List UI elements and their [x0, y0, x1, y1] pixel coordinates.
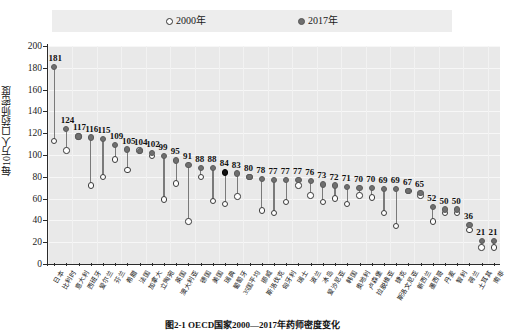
data-label-2017: 50 [452, 197, 461, 206]
data-point-2017 [308, 178, 314, 184]
data-point-2017 [210, 165, 216, 171]
x-tick-mark [360, 263, 361, 266]
gridline-vertical [121, 46, 122, 264]
data-point-2017 [332, 182, 338, 188]
data-point-2017 [466, 222, 472, 228]
x-tick-mark [421, 263, 422, 266]
data-label-2017: 36 [464, 212, 473, 221]
x-tick-mark [298, 263, 299, 266]
data-label-2017: 80 [244, 164, 253, 173]
data-point-2000 [63, 147, 69, 153]
x-tick-mark [201, 263, 202, 266]
data-point-2017 [344, 184, 350, 190]
gridline-vertical [243, 46, 244, 264]
data-point-2017 [234, 170, 240, 176]
x-tick-mark [372, 263, 373, 266]
data-point-2000 [320, 199, 326, 205]
data-point-2000 [491, 244, 497, 250]
legend-label-2017: 2017年 [308, 16, 338, 26]
data-point-2000 [332, 195, 338, 201]
y-tick-mark [43, 220, 47, 221]
x-tick-mark [408, 263, 409, 266]
data-point-2017 [100, 136, 106, 142]
data-point-2000 [369, 194, 375, 200]
data-point-2017 [173, 157, 179, 163]
stem-line [90, 138, 91, 186]
y-tick-label: 100 [20, 150, 42, 160]
data-point-2017 [381, 186, 387, 192]
y-tick-mark [43, 199, 47, 200]
chart-root: 2000年 2017年 每10万人口药师密度 02040608010012014… [0, 0, 505, 334]
x-tick-mark [347, 263, 348, 266]
x-tick-mark [225, 263, 226, 266]
data-point-2000 [88, 182, 94, 188]
data-point-2017 [295, 177, 301, 183]
gridline-vertical [341, 46, 342, 264]
data-label-2017: 117 [73, 123, 86, 132]
data-point-2017 [393, 186, 399, 192]
legend-item-2017: 2017年 [298, 16, 338, 26]
data-point-2017 [259, 176, 265, 182]
data-point-2017 [417, 190, 423, 196]
data-label-2017: 72 [330, 173, 339, 182]
stem-line [163, 156, 164, 200]
data-point-2017 [320, 181, 326, 187]
data-point-2000 [124, 167, 130, 173]
stem-line [54, 67, 55, 141]
y-axis-tick-labels: 020406080100120140160180200 [16, 46, 42, 264]
data-label-2017: 115 [97, 126, 110, 135]
data-point-2017 [271, 177, 277, 183]
data-label-2017: 77 [281, 167, 290, 176]
data-point-2017 [356, 185, 362, 191]
gridline-vertical [146, 46, 147, 264]
data-label-2017: 84 [220, 159, 229, 168]
y-axis-title: 每10万人口药师密度 [0, 86, 14, 176]
data-point-2017 [198, 165, 204, 171]
data-point-2000 [234, 193, 240, 199]
gridline-horizontal [48, 242, 500, 243]
x-tick-mark [237, 263, 238, 266]
x-tick-mark [494, 263, 495, 266]
data-point-2000 [307, 192, 313, 198]
chart-legend: 2000年 2017年 [52, 10, 452, 32]
data-label-2017: 52 [427, 194, 436, 203]
x-tick-mark [152, 263, 153, 266]
plot-area: 1811241171161151091051041029995918888848… [48, 46, 500, 264]
gridline-vertical [292, 46, 293, 264]
data-point-2017 [51, 64, 57, 70]
data-label-2017: 70 [366, 175, 375, 184]
gridline-vertical [439, 46, 440, 264]
x-tick-mark [91, 263, 92, 266]
gridline-vertical [463, 46, 464, 264]
legend-label-2000: 2000年 [176, 16, 206, 26]
x-tick-mark [54, 263, 55, 266]
data-point-2000 [112, 156, 118, 162]
data-point-2000 [51, 138, 57, 144]
data-point-2000 [173, 180, 179, 186]
data-point-2000 [381, 210, 387, 216]
gridline-vertical [366, 46, 367, 264]
data-point-2000 [198, 174, 204, 180]
y-tick-mark [43, 46, 47, 47]
data-label-2017: 77 [269, 167, 278, 176]
data-label-2017: 70 [354, 175, 363, 184]
gridline-vertical [48, 46, 49, 264]
gridline-horizontal [48, 68, 500, 69]
x-tick-label: 南非 [490, 268, 505, 285]
open-circle-icon [166, 18, 173, 25]
x-tick-mark [457, 263, 458, 266]
x-tick-mark [79, 263, 80, 266]
y-tick-label: 180 [20, 63, 42, 73]
x-tick-mark [286, 263, 287, 266]
data-label-2017: 65 [415, 180, 424, 189]
y-tick-mark [43, 90, 47, 91]
y-tick-label: 200 [20, 41, 42, 51]
data-point-2017 [124, 146, 130, 152]
gridline-horizontal [48, 90, 500, 91]
y-tick-label: 120 [20, 128, 42, 138]
data-label-2017: 78 [256, 166, 265, 175]
figure-caption: 图2-1 OECD国家2000—2017年药师密度变化 [0, 318, 505, 331]
data-point-2000 [259, 207, 265, 213]
data-point-2000 [466, 227, 472, 233]
y-tick-label: 160 [20, 85, 42, 95]
